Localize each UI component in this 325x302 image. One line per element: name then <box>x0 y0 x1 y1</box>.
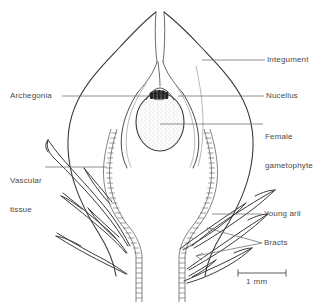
micropyle <box>138 12 182 92</box>
female-gametophyte <box>136 93 184 151</box>
vascular-tissue-right <box>179 129 218 302</box>
figure-root: Integument Archegonia Nucellus Female ga… <box>0 0 325 302</box>
label-nucellus: Nucellus <box>266 91 298 101</box>
label-archegonia: Archegonia <box>10 91 52 101</box>
label-vascular-tissue: Vascular tissue <box>10 157 42 233</box>
label-female-gametophyte-line1: Female <box>265 132 313 142</box>
scale-bar <box>238 270 286 277</box>
label-female-gametophyte: Female gametophyte <box>265 113 313 189</box>
label-female-gametophyte-line2: gametophyte <box>265 161 313 171</box>
label-young-aril: Young aril <box>264 209 301 219</box>
label-vascular-tissue-line1: Vascular <box>10 176 42 186</box>
bracts-right <box>180 190 275 283</box>
label-integument: Integument <box>267 55 309 65</box>
label-bracts: Bracts <box>264 238 288 248</box>
scale-bar-label: 1 mm <box>246 277 268 286</box>
label-vascular-tissue-line2: tissue <box>10 205 42 215</box>
bracts-left <box>46 140 130 274</box>
